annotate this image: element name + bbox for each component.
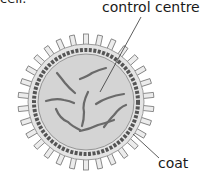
virus-diagram [0,0,207,181]
interior [38,54,134,150]
